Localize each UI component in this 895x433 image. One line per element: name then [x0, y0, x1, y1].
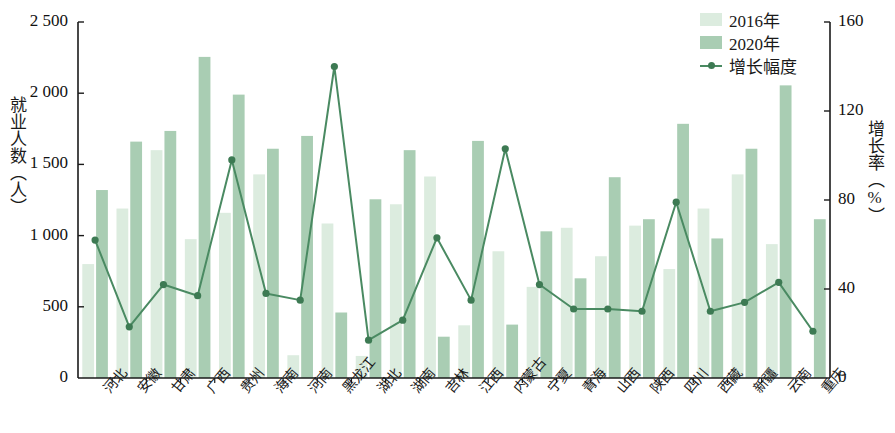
bar-2020 — [814, 219, 826, 378]
bar-2020 — [335, 313, 347, 379]
bar-2016 — [116, 209, 128, 378]
growth-rate-point — [570, 305, 577, 312]
growth-rate-point — [638, 308, 645, 315]
growth-rate-point — [228, 156, 235, 163]
growth-rate-point — [536, 281, 543, 288]
legend-swatch-2016-icon — [700, 13, 722, 26]
legend-swatch-2020-icon — [700, 36, 722, 49]
y-axis-right-tick-label: 40 — [838, 278, 855, 298]
bar-2020 — [267, 149, 279, 378]
y-axis-right-title: 增长率（%） — [862, 120, 887, 224]
y-axis-left-tick-label: 2 000 — [4, 82, 68, 102]
bar-2016 — [595, 256, 607, 378]
growth-rate-point — [467, 297, 474, 304]
bar-2020 — [233, 95, 245, 378]
bar-2016 — [390, 204, 402, 378]
bar-2020 — [746, 149, 758, 378]
growth-rate-point — [262, 290, 269, 297]
bar-2020 — [609, 177, 621, 378]
bar-2020 — [438, 337, 450, 378]
bar-2020 — [370, 199, 382, 378]
bar-2016 — [424, 177, 436, 379]
bar-2016 — [82, 264, 94, 378]
growth-rate-point — [160, 281, 167, 288]
growth-rate-point — [399, 317, 406, 324]
bar-2020 — [540, 231, 552, 378]
legend-line-marker-icon — [700, 59, 722, 72]
bar-2020 — [780, 85, 792, 378]
legend-label-2016: 2016年 — [729, 7, 780, 32]
growth-rate-point — [365, 337, 372, 344]
bar-2016 — [151, 150, 163, 378]
bar-2020 — [404, 150, 416, 378]
legend-item-growth-rate: 增长幅度 — [700, 54, 840, 77]
bar-2016 — [219, 213, 231, 378]
bar-2020 — [96, 190, 108, 378]
bar-2016 — [629, 226, 641, 378]
legend-label-growth-rate: 增长幅度 — [729, 53, 797, 78]
bar-2016 — [492, 251, 504, 378]
bar-2020 — [164, 131, 176, 378]
growth-rate-point — [502, 145, 509, 152]
bar-2016 — [322, 224, 334, 379]
y-axis-right-tick-label: 160 — [838, 11, 864, 31]
growth-rate-point — [126, 323, 133, 330]
bar-2020 — [643, 219, 655, 378]
legend-label-2020: 2020年 — [729, 30, 780, 55]
y-axis-left-tick-label: 1 000 — [4, 225, 68, 245]
growth-rate-point — [707, 308, 714, 315]
growth-rate-point — [194, 292, 201, 299]
growth-rate-point — [297, 297, 304, 304]
chart-container: 就业人数（人） 增长率（%） 05001 0001 5002 0002 500 … — [0, 0, 895, 433]
y-axis-left-tick-label: 2 500 — [4, 11, 68, 31]
bar-2016 — [732, 174, 744, 378]
bar-2016 — [253, 174, 265, 378]
bar-2020 — [130, 142, 142, 378]
legend-item-2016: 2016年 — [700, 8, 840, 31]
growth-rate-point — [775, 279, 782, 286]
legend-item-2020: 2020年 — [700, 31, 840, 54]
bar-2016 — [766, 244, 778, 378]
bar-2020 — [575, 278, 587, 378]
chart-legend: 2016年 2020年 增长幅度 — [700, 8, 840, 77]
growth-rate-point — [433, 234, 440, 241]
growth-rate-point — [331, 63, 338, 70]
bar-2020 — [506, 325, 518, 378]
growth-rate-point — [673, 199, 680, 206]
y-axis-right-tick-label: 80 — [838, 189, 855, 209]
growth-rate-point — [741, 299, 748, 306]
growth-rate-point — [91, 236, 98, 243]
y-axis-left-tick-label: 500 — [4, 296, 68, 316]
bar-2016 — [698, 209, 710, 378]
bar-2020 — [677, 124, 689, 378]
y-axis-left-tick-label: 0 — [4, 367, 68, 387]
bars-layer — [82, 57, 825, 378]
bar-2016 — [185, 239, 197, 378]
bar-2016 — [663, 269, 675, 378]
y-axis-right-tick-label: 120 — [838, 100, 864, 120]
bar-2020 — [472, 141, 484, 378]
y-axis-left-tick-label: 1 500 — [4, 153, 68, 173]
bar-2020 — [199, 57, 211, 378]
growth-rate-point — [809, 328, 816, 335]
growth-rate-point — [604, 305, 611, 312]
